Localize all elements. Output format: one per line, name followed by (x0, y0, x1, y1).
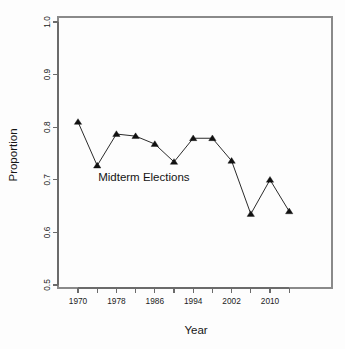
y-axis: 0.50.60.70.80.91.0 (42, 16, 58, 291)
x-axis-tick-label: 2010 (261, 296, 280, 306)
y-axis-tick-label: 0.5 (42, 279, 52, 291)
x-axis-tick-label: 1986 (146, 296, 165, 306)
y-axis-tick-label: 0.7 (42, 174, 52, 186)
data-point-marker (286, 208, 293, 214)
data-point-marker (113, 131, 120, 137)
y-axis-tick-label: 0.6 (42, 226, 52, 238)
x-axis-tick-label: 1978 (107, 296, 126, 306)
y-axis-tick-label: 0.9 (42, 68, 52, 80)
x-axis-tick-label: 1994 (184, 296, 203, 306)
series-markers (74, 119, 293, 217)
chart-annotations: Midterm Elections (98, 171, 190, 183)
x-axis: 197019781986199420022010 (69, 288, 289, 306)
plot-frame (58, 17, 332, 288)
data-point-marker (94, 162, 101, 168)
line-chart-svg: 0.50.60.70.80.91.0 197019781986199420022… (0, 0, 345, 349)
data-point-marker (247, 211, 254, 217)
plot-box-border (58, 17, 332, 288)
data-series-midterm-proportion (74, 119, 293, 217)
annotation-label: Midterm Elections (98, 171, 190, 183)
data-point-marker (74, 119, 81, 125)
y-axis-title: Proportion (7, 128, 19, 181)
x-axis-tick-label: 1970 (69, 296, 88, 306)
data-point-marker (151, 141, 158, 147)
data-point-marker (266, 177, 273, 183)
x-axis-title: Year (184, 324, 207, 336)
y-axis-tick-label: 0.8 (42, 121, 52, 133)
x-axis-tick-label: 2002 (222, 296, 241, 306)
chart-figure: 0.50.60.70.80.91.0 197019781986199420022… (0, 0, 345, 349)
y-axis-tick-label: 1.0 (42, 16, 52, 28)
series-line-path (78, 122, 289, 214)
